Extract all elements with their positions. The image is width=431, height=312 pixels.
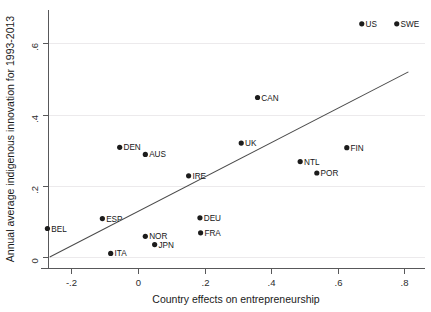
data-point[interactable]: POR <box>314 169 338 178</box>
x-tick-labels: -.20.2.4.6.8 <box>66 277 409 288</box>
x-tick-label: -.2 <box>66 277 77 288</box>
data-point-marker[interactable] <box>394 21 399 26</box>
data-point[interactable]: FIN <box>344 144 364 153</box>
data-point-label: ITA <box>114 249 127 258</box>
data-point-label: ESP <box>106 215 123 224</box>
data-point-marker[interactable] <box>117 145 122 150</box>
y-tick-marks <box>43 44 48 258</box>
y-tick-label: .6 <box>29 43 40 51</box>
data-point-label: US <box>366 20 378 29</box>
plot-canvas: -.20.2.4.6.8 0.2.4.6 USSWECANUKFINDENAUS… <box>0 0 431 312</box>
x-tick-label: .4 <box>268 277 276 288</box>
data-point[interactable]: IRE <box>186 172 207 181</box>
data-point-marker[interactable] <box>344 145 349 150</box>
data-point-label: IRE <box>192 172 206 181</box>
data-point[interactable]: UK <box>239 139 257 148</box>
y-tick-label: .2 <box>29 186 40 194</box>
data-point-marker[interactable] <box>143 234 148 239</box>
y-axis-title: Annual average indigenous innovation for… <box>4 16 16 263</box>
data-point-label: UK <box>245 139 257 148</box>
data-point[interactable]: NTL <box>298 158 320 167</box>
data-point-label: SWE <box>401 20 420 29</box>
data-point-marker[interactable] <box>314 170 319 175</box>
data-point[interactable]: US <box>359 20 377 29</box>
fit-line <box>50 72 409 257</box>
data-point-label: BEL <box>51 225 67 234</box>
data-point-label: FRA <box>204 229 221 238</box>
data-point-label: DEU <box>204 214 221 223</box>
gridlines <box>49 44 425 258</box>
data-point-label: FIN <box>351 144 364 153</box>
data-point-label: CAN <box>261 94 278 103</box>
x-tick-marks <box>72 269 405 274</box>
x-tick-label: .2 <box>202 277 210 288</box>
data-point-marker[interactable] <box>197 215 202 220</box>
regression-line <box>50 72 409 257</box>
axes <box>41 10 425 269</box>
data-point[interactable]: CAN <box>255 94 279 103</box>
data-point[interactable]: ESP <box>100 215 123 224</box>
data-point-marker[interactable] <box>100 216 105 221</box>
data-point-marker[interactable] <box>359 21 364 26</box>
data-point-marker[interactable] <box>298 159 303 164</box>
data-point-label: AUS <box>149 150 166 159</box>
y-tick-labels: 0.2.4.6 <box>29 43 40 264</box>
data-point[interactable]: FRA <box>198 229 221 238</box>
x-tick-label: 0 <box>136 277 141 288</box>
scatter-plot-figure: -.20.2.4.6.8 0.2.4.6 USSWECANUKFINDENAUS… <box>0 0 431 312</box>
y-tick-label: .4 <box>29 115 40 123</box>
data-point-marker[interactable] <box>255 95 260 100</box>
x-tick-label: .8 <box>401 277 409 288</box>
data-point-marker[interactable] <box>152 242 157 247</box>
data-point-label: NTL <box>304 158 320 167</box>
x-tick-label: .6 <box>335 277 343 288</box>
data-point-marker[interactable] <box>45 226 50 231</box>
data-point-label: DEN <box>123 143 140 152</box>
data-point-marker[interactable] <box>108 251 113 256</box>
data-point[interactable]: DEN <box>117 143 141 152</box>
data-point[interactable]: JPN <box>152 241 174 250</box>
x-axis-title: Country effects on entrepreneurship <box>152 293 319 305</box>
data-point-marker[interactable] <box>143 152 148 157</box>
data-point-marker[interactable] <box>198 230 203 235</box>
data-point-label: JPN <box>158 241 174 250</box>
data-points: USSWECANUKFINDENAUSNTLPORIREESPDEUBELFRA… <box>45 20 420 259</box>
data-point-marker[interactable] <box>239 140 244 145</box>
data-point-label: POR <box>321 169 339 178</box>
data-point-marker[interactable] <box>186 173 191 178</box>
data-point[interactable]: AUS <box>143 150 167 159</box>
data-point[interactable]: SWE <box>394 20 420 29</box>
y-tick-label: 0 <box>29 258 40 263</box>
data-point[interactable]: DEU <box>197 214 221 223</box>
